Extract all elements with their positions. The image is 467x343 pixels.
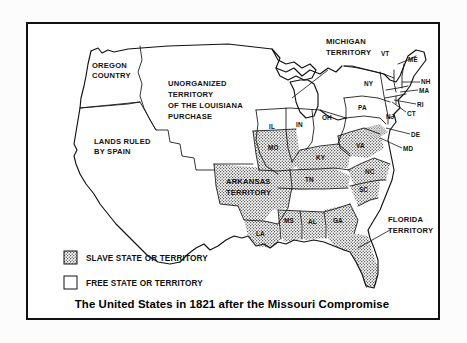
- state-label-NY: NY: [364, 80, 374, 87]
- border-indiana-east: [306, 110, 314, 150]
- state-label-NH: NH: [421, 78, 431, 85]
- border-pennsylvania-west: [344, 98, 346, 118]
- region-fill-missouri: [253, 129, 300, 174]
- legend-swatch-free: [64, 276, 77, 289]
- state-label-AL: AL: [308, 218, 317, 225]
- label-unorganized-line2: TERRITORY: [168, 90, 213, 99]
- label-unorganized-line4: PURCHASE: [168, 112, 212, 121]
- region-fill-mississippi: [278, 210, 302, 242]
- page-background: OREGON COUNTRY UNORGANIZED TERRITORY OF …: [0, 0, 467, 343]
- label-oregon-country-line1: OREGON: [92, 61, 127, 70]
- state-label-SC: SC: [359, 186, 368, 193]
- region-fill-tennessee: [278, 168, 350, 190]
- state-label-RI: RI: [417, 101, 424, 108]
- state-label-IL: IL: [269, 123, 275, 130]
- outline-pacific-coast: [74, 51, 180, 264]
- label-oregon-country-line2: COUNTRY: [92, 71, 131, 80]
- border-massachusetts-north: [386, 86, 408, 90]
- border-oregon-east: [138, 46, 156, 130]
- leader-massachusetts: [400, 90, 418, 92]
- state-label-MO: MO: [268, 144, 279, 151]
- label-spain-line2: BY SPAIN: [94, 147, 131, 156]
- us-map-1821: OREGON COUNTRY UNORGANIZED TERRITORY OF …: [28, 24, 437, 317]
- lake-superior-shore: [272, 49, 316, 80]
- label-arkansas-territory-line1: ARKANSAS: [226, 177, 271, 186]
- label-spain-line1: LANDS RULED: [94, 137, 151, 146]
- michigan-peninsula: [290, 80, 318, 118]
- border-pennsylvania-north: [344, 96, 390, 102]
- state-label-MS: MS: [284, 217, 294, 224]
- border-new-hampshire-east: [402, 64, 404, 88]
- state-label-CT: CT: [407, 110, 416, 117]
- state-label-IN: IN: [296, 121, 303, 128]
- border-massachusetts-south: [385, 94, 406, 98]
- state-label-PA: PA: [358, 104, 367, 111]
- label-unorganized-line1: UNORGANIZED: [168, 79, 227, 88]
- legend-label-slave: SLAVE STATE OR TERRITORY: [86, 254, 208, 263]
- map-title: The United States in 1821 after the Miss…: [75, 298, 389, 310]
- state-label-MA: MA: [419, 87, 429, 94]
- state-label-DE: DE: [411, 131, 421, 138]
- state-label-VA: VA: [356, 142, 365, 149]
- state-label-GA: GA: [333, 217, 343, 224]
- legend-swatch-slave: [64, 251, 77, 264]
- leader-michigan-territory: [292, 70, 328, 98]
- label-arkansas-territory-line2: TERRITORY: [226, 188, 271, 197]
- state-label-MD: MD: [403, 145, 413, 152]
- state-label-KY: KY: [316, 154, 326, 161]
- label-florida-territory-line2: TERRITORY: [388, 226, 433, 235]
- region-fill-alabama: [300, 211, 326, 240]
- border-new-york-east: [380, 72, 386, 106]
- border-pennsylvania-south: [346, 116, 386, 124]
- label-michigan-territory-line2: TERRITORY: [326, 48, 371, 57]
- label-michigan-territory-line1: MICHIGAN: [326, 37, 366, 46]
- legend-label-free: FREE STATE OR TERRITORY: [86, 279, 203, 288]
- leader-rhode-island: [394, 100, 416, 104]
- state-label-NJ: NJ: [386, 113, 395, 120]
- map-legend: SLAVE STATE OR TERRITORY FREE STATE OR T…: [64, 251, 208, 289]
- state-label-NC: NC: [365, 168, 375, 175]
- label-florida-territory-line1: FLORIDA: [388, 215, 423, 224]
- label-unorganized-line3: OF THE LOUISIANA: [168, 101, 243, 110]
- region-fill-florida-territory: [328, 234, 378, 288]
- state-label-OH: OH: [322, 114, 332, 121]
- state-label-TN: TN: [305, 176, 314, 183]
- map-frame: OREGON COUNTRY UNORGANIZED TERRITORY OF …: [26, 22, 440, 320]
- state-label-LA: LA: [256, 230, 265, 237]
- state-label-VT: VT: [381, 50, 389, 57]
- state-label-ME: ME: [408, 56, 418, 63]
